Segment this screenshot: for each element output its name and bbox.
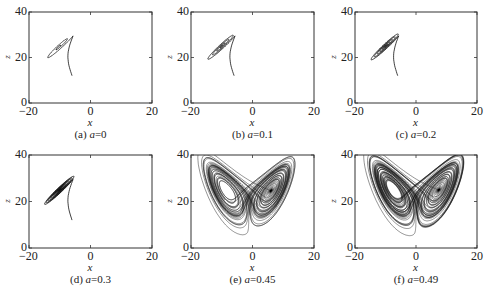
caption-value: =0.49 [413,273,438,285]
y-tick-label: 20 [341,195,353,207]
y-tick-label: 0 [347,241,353,253]
panel-caption: (f) a=0.49 [346,273,485,285]
y-tick-label: 40 [341,148,353,160]
z-axis-label: z [328,199,338,203]
x-axis-label: x [413,261,418,273]
caption-label: (f) [394,273,408,285]
x-tick-label: 20 [471,250,483,262]
trajectory-line [364,147,464,236]
